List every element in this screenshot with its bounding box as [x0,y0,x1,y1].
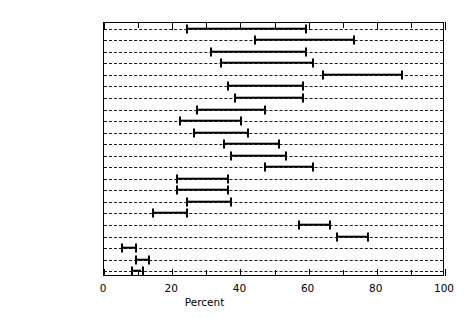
axis-tick [275,22,276,28]
range-cap-high [227,174,229,183]
range-cap-high [305,47,307,56]
axis-tick [240,269,241,277]
axis-tick [206,22,207,28]
range-cap-low [176,174,178,183]
range-cap-high [278,140,280,149]
range-bar [135,258,149,260]
range-cap-low [220,59,222,68]
chart-row [104,150,443,162]
gridline [104,121,443,122]
gridline [104,260,443,261]
range-bar [223,143,278,145]
chart-row [104,138,443,150]
range-cap-low [152,209,154,218]
range-cap-low [298,221,300,230]
axis-tick [445,269,446,277]
gridline [104,248,443,249]
chart-row [104,242,443,254]
x-tick-label: 40 [233,282,246,294]
range-cap-low [131,267,133,276]
range-bar [176,178,227,180]
gridline [104,190,443,191]
chart-row [104,219,443,231]
chart-row [104,173,443,185]
range-cap-high [285,151,287,160]
axis-tick [309,269,310,277]
range-bar [186,201,230,203]
range-bar [254,39,353,41]
chart-row [104,46,443,58]
axis-tick [104,22,105,30]
range-cap-high [302,82,304,91]
axis-tick [411,270,412,276]
chart-row [104,231,443,243]
range-cap-high [247,128,249,137]
chart-row [104,58,443,70]
chart-row [104,208,443,220]
range-cap-high [227,186,229,195]
x-axis-title: Percent [0,296,473,308]
range-cap-low [176,186,178,195]
range-cap-high [240,117,242,126]
axis-tick [343,22,344,28]
axis-tick [377,269,378,277]
range-cap-low [254,36,256,45]
chart-row [104,265,443,277]
axis-tick [377,22,378,30]
range-bar [234,97,302,99]
range-cap-low [121,244,123,253]
range-bar [210,51,305,53]
range-bar [227,85,302,87]
gridline [104,133,443,134]
range-bar [179,120,240,122]
x-tick-label: 60 [301,282,314,294]
axis-tick [240,22,241,30]
axis-tick [411,22,412,28]
range-cap-low [196,105,198,114]
range-cap-low [227,82,229,91]
chart-row [104,69,443,81]
gridline [104,110,443,111]
range-cap-high [312,59,314,68]
chart-row [104,162,443,174]
chart-row [104,127,443,139]
chart-row [104,104,443,116]
range-cap-low [193,128,195,137]
range-cap-high [302,94,304,103]
range-bar [298,224,329,226]
gridline [104,179,443,180]
range-cap-high [135,244,137,253]
range-cap-high [353,36,355,45]
chart-row [104,81,443,93]
range-cap-high [305,24,307,33]
range-bar [176,189,227,191]
range-bar [121,247,135,249]
range-bar [220,62,312,64]
range-bar [193,131,248,133]
range-bar [186,27,305,29]
range-cap-high [329,221,331,230]
range-cap-low [135,255,137,264]
chart-row [104,35,443,47]
range-cap-high [142,267,144,276]
range-cap-high [401,70,403,79]
range-cap-high [367,232,369,241]
gridline [104,237,443,238]
range-cap-low [223,140,225,149]
range-bar [230,154,285,156]
x-tick-label: 20 [165,282,178,294]
range-cap-high [312,163,314,172]
axis-tick [445,22,446,30]
x-tick-label: 100 [434,282,454,294]
axis-tick [172,269,173,277]
range-cap-low [210,47,212,56]
range-cap-low [186,24,188,33]
chart-row [104,185,443,197]
range-bar [196,108,264,110]
chart-row [104,115,443,127]
range-cap-high [230,197,232,206]
chart-figure: FranceDenmarkGermany (FRG)NorwaySwedenNe… [0,0,473,318]
range-cap-low [234,94,236,103]
axis-tick [138,22,139,28]
axis-tick [343,270,344,276]
